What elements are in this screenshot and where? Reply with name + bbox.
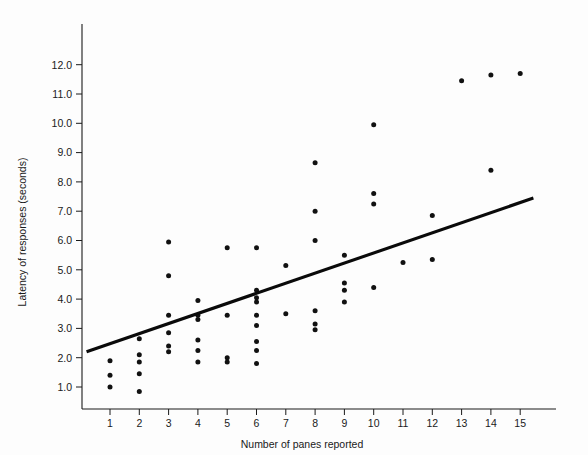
data-point (518, 71, 523, 76)
x-axis-tick-label: 12 (426, 417, 438, 429)
data-point (371, 285, 376, 290)
x-axis-tick-label: 10 (368, 417, 380, 429)
y-axis-tick-label: 9.0 (57, 146, 72, 158)
y-axis-tick-label: 11.0 (52, 88, 72, 100)
data-point (283, 263, 288, 268)
y-axis-tick-label: 10.0 (52, 117, 73, 129)
y-axis-tick-label: 7.0 (57, 205, 72, 217)
x-axis-tick-label: 9 (341, 417, 347, 429)
x-axis-tick-label: 3 (166, 417, 172, 429)
data-point (371, 191, 376, 196)
x-axis-title: Number of panes reported (241, 438, 364, 450)
data-point (166, 273, 171, 278)
data-point (137, 371, 142, 376)
data-point (137, 360, 142, 365)
data-point (342, 253, 347, 258)
data-point (313, 308, 318, 313)
x-axis-tick-label: 2 (136, 417, 142, 429)
y-axis-tick-label: 6.0 (57, 234, 72, 246)
data-point (137, 389, 142, 394)
data-point (195, 360, 200, 365)
x-axis-tick-label: 13 (456, 417, 468, 429)
data-point (313, 322, 318, 327)
y-axis-tick-label: 8.0 (57, 176, 72, 188)
regression-line-layer (87, 198, 534, 352)
data-point (430, 257, 435, 262)
data-point (254, 313, 259, 318)
data-point (166, 343, 171, 348)
data-point (313, 209, 318, 214)
data-point (137, 352, 142, 357)
x-axis-tick-label: 11 (398, 417, 409, 429)
regression-line (87, 198, 534, 352)
data-point (254, 348, 259, 353)
data-point (225, 355, 230, 360)
data-point (342, 280, 347, 285)
x-axis-tick-label: 6 (254, 417, 260, 429)
data-point (166, 239, 171, 244)
y-axis-tick-label: 5.0 (57, 264, 72, 276)
data-point (371, 122, 376, 127)
data-point (225, 245, 230, 250)
x-axis-tick-label: 15 (514, 417, 526, 429)
data-point (254, 323, 259, 328)
data-point (254, 245, 259, 250)
x-axis-tick-label: 5 (224, 417, 230, 429)
data-point (225, 360, 230, 365)
x-axis: 123456789101112131415 (82, 409, 556, 429)
data-point (371, 201, 376, 206)
x-axis-tick-label: 4 (195, 417, 201, 429)
data-point (254, 300, 259, 305)
x-axis-tick-label: 7 (283, 417, 289, 429)
data-point (283, 311, 288, 316)
data-point (195, 338, 200, 343)
data-point (195, 298, 200, 303)
data-point (313, 327, 318, 332)
y-axis: 1.02.03.04.05.06.07.08.09.010.011.012.0 (52, 24, 82, 409)
data-point (108, 373, 113, 378)
data-point (254, 295, 259, 300)
data-point (313, 160, 318, 165)
y-axis-title: Latency of responses (seconds) (16, 158, 28, 307)
data-point (342, 288, 347, 293)
data-point (342, 300, 347, 305)
data-point (225, 313, 230, 318)
data-point (254, 339, 259, 344)
scatter-plot-figure: 1.02.03.04.05.06.07.08.09.010.011.012.0 … (0, 0, 588, 455)
y-axis-tick-label: 1.0 (57, 381, 72, 393)
data-point (254, 361, 259, 366)
data-point (108, 385, 113, 390)
data-point (488, 168, 493, 173)
data-point (137, 336, 142, 341)
x-axis-tick-label: 1 (107, 417, 113, 429)
data-point (166, 349, 171, 354)
data-point (459, 78, 464, 83)
data-point (108, 358, 113, 363)
x-axis-tick-label: 8 (312, 417, 318, 429)
plot-canvas: 1.02.03.04.05.06.07.08.09.010.011.012.0 … (0, 0, 588, 455)
x-axis-tick-label: 14 (485, 417, 497, 429)
y-axis-tick-label: 4.0 (57, 293, 72, 305)
data-points-layer (108, 71, 523, 394)
data-point (430, 213, 435, 218)
y-axis-tick-label: 3.0 (57, 322, 72, 334)
data-point (488, 72, 493, 77)
data-point (313, 238, 318, 243)
y-axis-tick-label: 12.0 (52, 59, 73, 71)
data-point (195, 348, 200, 353)
data-point (401, 260, 406, 265)
y-axis-tick-label: 2.0 (57, 352, 72, 364)
data-point (195, 317, 200, 322)
data-point (166, 330, 171, 335)
data-point (166, 313, 171, 318)
